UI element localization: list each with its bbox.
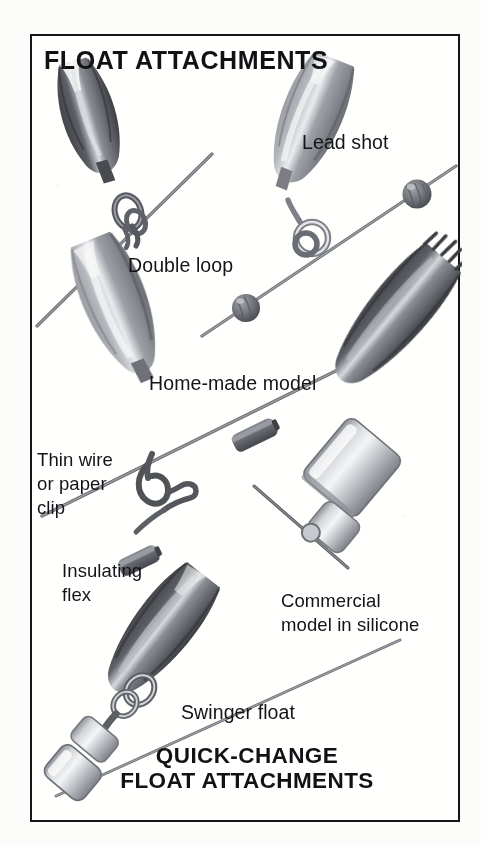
caption-thin-wire-line2: or paper	[37, 473, 107, 495]
page-title: FLOAT ATTACHMENTS	[44, 46, 328, 75]
lead-shot-upper	[403, 180, 432, 209]
footer-heading-line1: QUICK-CHANGE	[32, 744, 462, 768]
caption-home-made-model: Home-made model	[149, 372, 316, 395]
scanned-page: FLOAT ATTACHMENTS Lead shot Double loop …	[0, 0, 481, 846]
caption-commercial-line1: Commercial	[281, 590, 381, 612]
caption-commercial-line2: model in silicone	[281, 614, 419, 636]
illustration-frame: FLOAT ATTACHMENTS Lead shot Double loop …	[30, 34, 460, 822]
caption-insulating-line1: Insulating	[62, 560, 142, 582]
lead-shot-lower	[232, 294, 260, 322]
caption-swinger-float: Swinger float	[181, 701, 295, 724]
caption-lead-shot: Lead shot	[302, 131, 389, 154]
footer-heading-line2: FLOAT ATTACHMENTS	[32, 769, 462, 793]
caption-double-loop: Double loop	[128, 254, 233, 277]
caption-insulating-line2: flex	[62, 584, 91, 606]
caption-thin-wire-line3: clip	[37, 497, 65, 519]
caption-thin-wire-line1: Thin wire	[37, 449, 113, 471]
